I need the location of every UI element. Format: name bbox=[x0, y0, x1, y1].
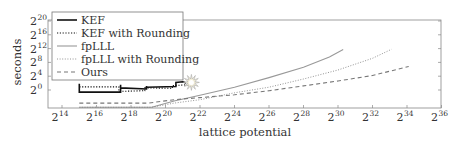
y-axis-label: seconds bbox=[10, 39, 24, 86]
y-tick-label: 212 bbox=[30, 41, 47, 56]
legend-label: Ours bbox=[81, 66, 108, 79]
chart-svg: 214216218220222224226228230232234236 202… bbox=[0, 0, 457, 152]
y-tick-label: 216 bbox=[30, 27, 47, 42]
starburst-marker bbox=[183, 74, 199, 90]
x-tick-label: 236 bbox=[431, 109, 448, 124]
x-tick-label: 232 bbox=[362, 109, 379, 124]
x-tick-label: 226 bbox=[258, 109, 275, 124]
y-tick-label: 220 bbox=[30, 13, 47, 28]
legend-label: fpLLL bbox=[81, 40, 115, 53]
x-tick-label: 230 bbox=[327, 109, 344, 124]
x-tick-label: 224 bbox=[224, 109, 241, 124]
y-tick-label: 24 bbox=[30, 68, 43, 83]
legend: KEFKEF with RoundingfpLLLfpLLL with Roun… bbox=[52, 12, 199, 80]
x-tick-label: 214 bbox=[51, 109, 68, 124]
series-kef bbox=[79, 82, 186, 92]
x-tick-label: 228 bbox=[293, 109, 310, 124]
x-tick-label: 222 bbox=[189, 109, 206, 124]
x-tick-label: 218 bbox=[120, 109, 137, 124]
x-tick-label: 220 bbox=[155, 109, 172, 124]
x-tick-label: 234 bbox=[396, 109, 413, 124]
y-tick-label: 20 bbox=[30, 82, 43, 97]
legend-label: KEF bbox=[81, 14, 105, 27]
legend-label: fpLLL with Rounding bbox=[81, 53, 199, 66]
legend-label: KEF with Rounding bbox=[81, 27, 190, 40]
y-tick-label: 28 bbox=[30, 54, 43, 69]
x-axis-label: lattice potential bbox=[199, 125, 292, 139]
x-tick-label: 216 bbox=[86, 109, 103, 124]
runtime-chart: 214216218220222224226228230232234236 202… bbox=[0, 0, 457, 152]
